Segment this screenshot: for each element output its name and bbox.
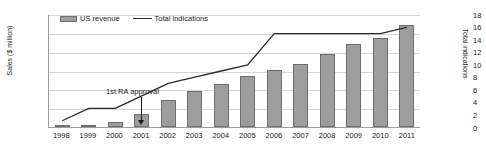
x-axis-tick-label: 2010	[367, 131, 394, 140]
bar-2003	[187, 91, 202, 127]
bar-2007	[293, 64, 308, 127]
legend-label-total-indications: Total indications	[155, 14, 208, 23]
bar-2006	[267, 70, 282, 127]
x-axis-tick-label: 2011	[394, 131, 421, 140]
x-axis-tick-label: 2004	[207, 131, 234, 140]
bar-slot	[288, 15, 315, 127]
x-axis-tick-label: 2001	[128, 131, 155, 140]
annotation-arrow-shaft	[141, 97, 142, 122]
legend-label-us-revenue: US revenue	[80, 14, 120, 23]
bar-2008	[320, 54, 335, 127]
x-axis-tick-label: 2005	[234, 131, 261, 140]
y-axis-right-tick-label: 0	[473, 124, 486, 133]
x-axis-tick-label: 2006	[261, 131, 288, 140]
x-axis-tick-label: 1999	[75, 131, 102, 140]
y-axis-right-tick-label: 2	[473, 111, 486, 120]
bar-2005	[240, 76, 255, 127]
y-axis-title-right: Total indications	[462, 15, 469, 93]
bar-slot	[394, 15, 421, 127]
bar-2000	[108, 122, 123, 127]
annotation-label: 1st RA approval	[106, 87, 159, 96]
bar-slot	[208, 15, 235, 127]
x-axis-tick-label: 2007	[287, 131, 314, 140]
y-axis-right-tick-label: 14	[473, 36, 486, 45]
x-axis-tick-label: 2002	[154, 131, 181, 140]
bar-series-us-revenue	[49, 15, 420, 127]
bar-2011	[399, 25, 414, 127]
bar-2004	[214, 84, 229, 127]
y-axis-right-tick-label: 4	[473, 98, 486, 107]
legend-item-us-revenue: US revenue	[60, 14, 120, 23]
bar-slot	[102, 15, 129, 127]
legend-line-swatch-icon	[133, 18, 152, 19]
y-axis-right-tick-label: 6	[473, 86, 486, 95]
bar-2009	[346, 44, 361, 127]
bar-slot	[261, 15, 288, 127]
x-axis-tick-label: 2000	[101, 131, 128, 140]
legend-bar-swatch-icon	[60, 16, 77, 22]
plot-area: 01,0002,0003,0004,0005,0006,000 02468101…	[48, 15, 420, 128]
bar-slot	[155, 15, 182, 127]
bar-slot	[341, 15, 368, 127]
y-axis-right-tick-label: 16	[473, 23, 486, 32]
bar-2002	[161, 100, 176, 127]
bar-2010	[373, 38, 388, 127]
annotation-arrow-head	[138, 120, 144, 125]
bar-slot	[49, 15, 76, 127]
bar-slot	[235, 15, 262, 127]
chart-legend: US revenue Total indications	[60, 14, 208, 23]
x-axis-tick-label: 1998	[48, 131, 75, 140]
y-axis-title-left: Sales ($ million)	[6, 11, 13, 91]
bar-1999	[81, 125, 96, 127]
x-axis-tick-labels: 1998199920002001200220032004200520062007…	[48, 131, 420, 140]
bar-slot	[76, 15, 103, 127]
y-axis-right-tick-label: 8	[473, 73, 486, 82]
bar-slot	[314, 15, 341, 127]
bar-slot	[367, 15, 394, 127]
y-axis-right-tick-label: 10	[473, 61, 486, 70]
legend-item-total-indications: Total indications	[133, 14, 208, 23]
bar-slot	[182, 15, 209, 127]
x-axis-tick-label: 2003	[181, 131, 208, 140]
x-axis-tick-label: 2008	[314, 131, 341, 140]
bar-1998	[55, 125, 70, 127]
x-axis-tick-label: 2009	[340, 131, 367, 140]
y-axis-right-tick-label: 12	[473, 48, 486, 57]
y-axis-right-tick-label: 18	[473, 11, 486, 20]
